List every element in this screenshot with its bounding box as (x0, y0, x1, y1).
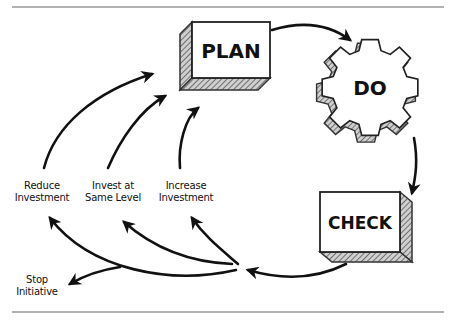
arrow-increase-to-plan (180, 108, 198, 168)
same-level-label: Invest at Same Level (78, 180, 148, 204)
increase-line2: Investment (150, 192, 222, 204)
arrow-do-to-check (412, 138, 416, 193)
do-gear: DO (317, 40, 418, 142)
reduce-investment-label: Reduce Investment (8, 180, 76, 204)
check-label: CHECK (328, 213, 393, 233)
reduce-line1: Reduce (8, 180, 76, 192)
check-box: CHECK (320, 192, 412, 262)
arrow-plan-to-do (272, 25, 350, 40)
increase-line1: Increase (150, 180, 222, 192)
same-level-line2: Same Level (78, 192, 148, 204)
arrow-decision-to-stop (70, 267, 120, 284)
same-level-line1: Invest at (78, 180, 148, 192)
arrow-decision-to-reduce (50, 218, 236, 276)
stop-initiative-label: Stop Initiative (12, 274, 62, 298)
plan-label: PLAN (201, 39, 261, 63)
stop-line2: Initiative (12, 286, 62, 298)
increase-investment-label: Increase Investment (150, 180, 222, 204)
do-label: DO (353, 76, 387, 100)
pdca-diagram: PLAN DO CHECK (0, 0, 451, 321)
reduce-line2: Investment (8, 192, 76, 204)
arrow-decision-to-increase (192, 218, 238, 264)
arrow-check-to-decision (248, 264, 346, 277)
stop-line1: Stop (12, 274, 62, 286)
arrow-same-level-to-plan (108, 96, 165, 168)
plan-box: PLAN (180, 22, 270, 90)
